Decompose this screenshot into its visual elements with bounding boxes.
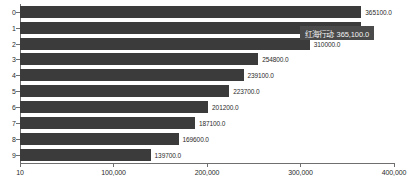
bar-row[interactable]: 201200.0 (20, 101, 394, 113)
bar-row[interactable]: 239100.0 (20, 69, 394, 81)
bar[interactable] (20, 6, 361, 18)
bar-value-label: 187100.0 (199, 119, 225, 126)
x-axis-tick (300, 163, 301, 167)
bar-value-label: 169600.0 (183, 135, 209, 142)
bar[interactable] (20, 117, 195, 129)
y-axis-label: 2 (2, 40, 16, 47)
bar[interactable] (20, 149, 151, 161)
x-axis-tick (20, 163, 21, 167)
x-axis-tick (113, 163, 114, 167)
bar-value-label: 201200.0 (212, 104, 238, 111)
tooltip-text: 红海行动: 365,100.0 (305, 28, 369, 39)
x-axis-label: 300,000 (288, 169, 313, 176)
x-axis-tick (394, 163, 395, 167)
bar[interactable] (20, 133, 179, 145)
y-axis-label: 8 (2, 135, 16, 142)
y-axis-label: 5 (2, 88, 16, 95)
x-axis-label: 400,000 (382, 169, 407, 176)
bar[interactable] (20, 53, 258, 65)
bar-row[interactable]: 187100.0 (20, 117, 394, 129)
bar[interactable] (20, 101, 208, 113)
x-axis-label: 200,000 (195, 169, 220, 176)
bar-value-label: 139700.0 (155, 151, 181, 158)
y-axis-label: 1 (2, 24, 16, 31)
bar-chart: 0123456789 365100.0310000.0254800.023910… (0, 0, 410, 184)
x-axis-label: 100,000 (101, 169, 126, 176)
chart-tooltip: 红海行动: 365,100.0 (300, 26, 374, 40)
bar-value-label: 223700.0 (233, 88, 259, 95)
y-axis-label: 4 (2, 72, 16, 79)
bar-value-label: 254800.0 (262, 56, 288, 63)
bar-row[interactable]: 169600.0 (20, 133, 394, 145)
bar-row[interactable]: 254800.0 (20, 53, 394, 65)
bar-row[interactable]: 139700.0 (20, 149, 394, 161)
bar-row[interactable]: 365100.0 (20, 6, 394, 18)
bar[interactable] (20, 85, 229, 97)
x-axis-label: 10 (16, 169, 24, 176)
y-axis-label: 9 (2, 151, 16, 158)
bar-value-label: 239100.0 (248, 72, 274, 79)
y-axis-label: 6 (2, 104, 16, 111)
y-axis-label: 7 (2, 119, 16, 126)
bar-value-label: 365100.0 (365, 8, 391, 15)
y-axis-label: 3 (2, 56, 16, 63)
bar[interactable] (20, 69, 244, 81)
x-axis-tick (207, 163, 208, 167)
bar[interactable] (20, 38, 310, 50)
bar-value-label: 310000.0 (314, 40, 340, 47)
bar-row[interactable]: 223700.0 (20, 85, 394, 97)
y-axis-label: 0 (2, 8, 16, 15)
